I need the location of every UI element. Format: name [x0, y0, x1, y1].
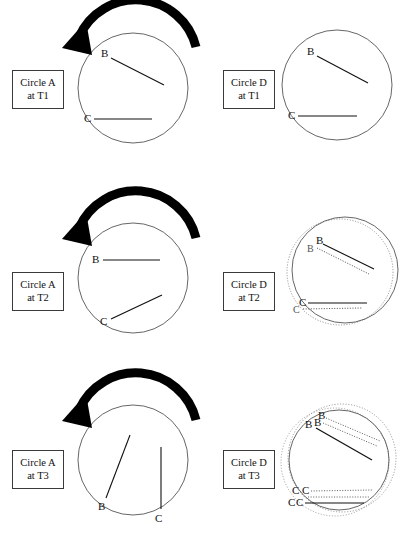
- point-label-b: B: [98, 500, 105, 512]
- rotation-arrow-t2: [62, 191, 196, 246]
- chord-b-circle-d-t1: [317, 56, 368, 83]
- figure-row-t1: B C B C: [0, 0, 419, 180]
- point-label-b: B: [314, 416, 321, 428]
- circle-a-t2-outline: [78, 223, 188, 333]
- figure-row-t3: B C B B B C C C C: [0, 370, 419, 544]
- point-label-b: B: [307, 243, 314, 254]
- circle-d-t1-outline: [282, 30, 392, 140]
- chord-b-circle-d-t3-ghost-2: [323, 423, 377, 446]
- circle-d-t2-outline: [292, 217, 398, 323]
- point-label-c: C: [293, 304, 300, 315]
- point-label-b: B: [101, 47, 108, 59]
- rotation-arrow-t1: [62, 0, 196, 55]
- point-label-b: B: [305, 418, 312, 430]
- point-label-c: C: [292, 484, 299, 496]
- chord-b-circle-d-t2-ghost: [317, 248, 369, 274]
- circle-a-t1-outline: [78, 33, 188, 143]
- row-t1: Circle A at T1 Circle D at T1 B C B C: [0, 0, 419, 180]
- point-label-c: C: [84, 112, 91, 124]
- chord-c-circle-a-t2: [111, 295, 162, 319]
- point-label-c: C: [288, 109, 295, 121]
- rotation-arrow-t3: [62, 373, 196, 428]
- chord-b-circle-d-t3-ghost-1: [326, 418, 380, 441]
- row-t2: Circle A at T2 Circle D at T2 B C B B C …: [0, 180, 419, 370]
- chord-b-circle-a-t1: [111, 58, 164, 85]
- point-label-c: C: [288, 496, 295, 508]
- point-label-b: B: [307, 45, 314, 57]
- chord-c-circle-d-t2-ghost: [303, 308, 362, 309]
- circle-d-t2-ghost-1: [287, 219, 393, 325]
- point-label-c: C: [155, 512, 162, 524]
- row-t3: Circle A at T3 Circle D at T3 B C B B B …: [0, 370, 419, 544]
- point-label-b: B: [92, 253, 99, 265]
- point-label-c: C: [302, 484, 309, 496]
- figure-row-t2: B C B B C C: [0, 180, 419, 370]
- chord-b-circle-d-t2-solid: [323, 244, 374, 269]
- point-label-c: C: [299, 296, 306, 308]
- chord-b-circle-a-t3: [106, 435, 130, 498]
- point-label-c: C: [296, 496, 303, 508]
- point-label-b: B: [316, 234, 323, 246]
- point-label-c: C: [100, 315, 107, 327]
- chord-c-circle-d-t3-ghost-1: [311, 490, 372, 491]
- chord-b-circle-d-t3-solid: [316, 428, 372, 460]
- circle-a-t3-outline: [78, 405, 188, 515]
